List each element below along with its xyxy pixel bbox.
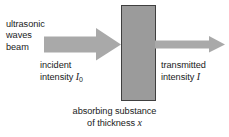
ultrasound-attenuation-figure: ultrasonic waves beam incident intensity… — [0, 0, 229, 137]
incident-label-line-1: incident — [40, 60, 83, 71]
transmitted-intensity-word: intensity — [161, 72, 194, 82]
transmitted-beam-arrow — [155, 36, 225, 53]
incident-intensity-label: incident intensity I0 — [40, 60, 83, 86]
transmitted-label-line-1: transmitted — [161, 60, 206, 71]
caption-line-2: of thickness x — [0, 117, 229, 129]
incident-intensity-subscript: 0 — [79, 76, 83, 83]
incident-intensity-word: intensity — [40, 72, 73, 82]
source-label: ultrasonic waves beam — [6, 19, 45, 53]
caption-thickness-word: of thickness — [87, 118, 135, 128]
figure-caption: absorbing substance of thickness x — [0, 106, 229, 130]
source-label-line-2: waves — [6, 30, 45, 41]
caption-line-1: absorbing substance — [0, 106, 229, 117]
thickness-symbol: x — [138, 117, 142, 128]
transmitted-intensity-symbol: I — [197, 71, 200, 82]
absorbing-substance-block — [122, 6, 156, 101]
transmitted-label-line-2: intensity I — [161, 71, 206, 83]
transmitted-intensity-label: transmitted intensity I — [161, 60, 206, 84]
source-label-line-1: ultrasonic — [6, 19, 45, 30]
source-label-line-3: beam — [6, 42, 45, 53]
incident-label-line-2: intensity I0 — [40, 71, 83, 85]
incident-beam-arrow — [44, 28, 121, 61]
